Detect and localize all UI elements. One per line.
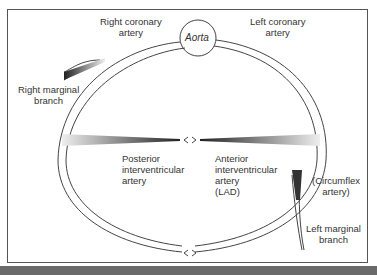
label-right-marginal-branch: Right marginal branch [18,84,79,106]
label-left-coronary-artery: Left coronary artery [250,16,305,38]
label-left-marginal-branch: Left marginal branch [306,223,361,245]
label-circumflex-artery: (Circumflex artery) [312,175,360,197]
label-right-coronary-artery: Right coronary artery [100,16,162,38]
label-aorta: Aorta [185,32,209,43]
label-anterior-interventricular-artery: Anterior interventricular artery (LAD) [215,153,277,197]
label-posterior-interventricular-artery: Posterior interventricular artery [122,153,184,186]
